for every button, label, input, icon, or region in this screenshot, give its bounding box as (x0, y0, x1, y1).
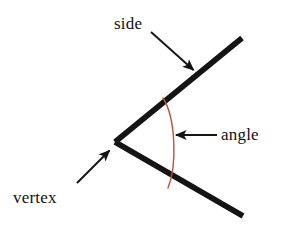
label-side: side (114, 15, 142, 32)
angle-diagram-figure: side angle vertex (0, 0, 285, 230)
vertex-leader-arrow (77, 151, 110, 184)
lower-ray (115, 142, 243, 216)
side-leader-arrow (151, 32, 194, 70)
label-angle: angle (221, 126, 259, 143)
label-vertex: vertex (13, 189, 57, 206)
